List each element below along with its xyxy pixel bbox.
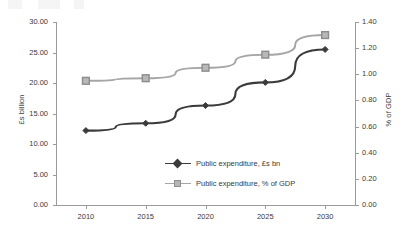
data-point-0-4 [322, 46, 328, 52]
data-point-0-3 [262, 79, 268, 85]
series-layer [83, 32, 329, 134]
legend-item-0: Public expenditure, £s bn [165, 158, 280, 168]
data-point-1-0 [83, 77, 90, 84]
data-point-0-0 [83, 128, 89, 134]
data-point-1-2 [202, 64, 209, 71]
legend-marker-square-icon [165, 179, 191, 188]
data-point-1-4 [322, 32, 329, 39]
series-line-0 [86, 49, 325, 130]
legend-label-0: Public expenditure, £s bn [196, 159, 280, 168]
data-point-0-1 [143, 120, 149, 126]
data-point-1-3 [262, 51, 269, 58]
legend-item-1: Public expenditure, % of GDP [165, 178, 295, 188]
chart-container: £s billion % of GDP 0.005.0010.0015.0020… [0, 0, 407, 240]
plot-area [0, 0, 407, 240]
series-line-1 [86, 35, 325, 81]
data-point-0-2 [203, 103, 209, 109]
legend-marker-diamond-icon [165, 159, 191, 168]
legend-label-1: Public expenditure, % of GDP [196, 179, 295, 188]
data-point-1-1 [142, 75, 149, 82]
